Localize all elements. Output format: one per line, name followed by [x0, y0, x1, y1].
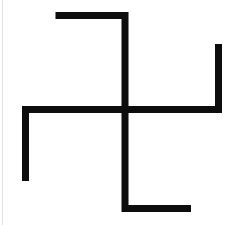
swastika-arm-bottom — [125, 110, 191, 209]
swastika-arm-left — [26, 110, 126, 182]
image-canvas: Swastika Symbol — [0, 0, 233, 225]
swastika-symbol: Swastika Symbol — [0, 0, 233, 225]
swastika-arm-right — [125, 44, 219, 110]
swastika-arm-top — [56, 16, 126, 110]
symbol-arm-group — [26, 16, 219, 209]
